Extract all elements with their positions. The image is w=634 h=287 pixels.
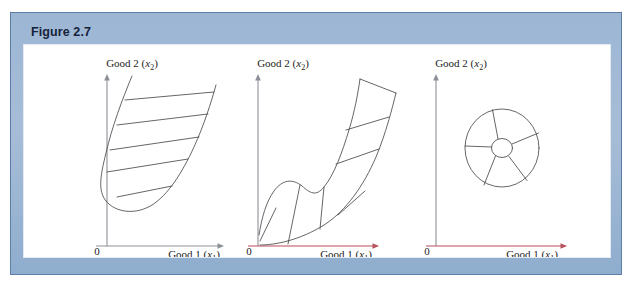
panel-left-origin-label: 0 [94, 245, 100, 257]
panel-left-tube-outline [101, 76, 216, 211]
panel-center-x-axis-label: Good 1 (x1) [320, 248, 372, 258]
panel-right-outer-circle [465, 109, 539, 187]
panel-left-indifference-curve-4 [117, 114, 208, 125]
panel-right-spoke-5 [465, 146, 492, 147]
panel-center-y-axis-label: Good 2 (x2) [257, 57, 309, 72]
figure-title: Figure 2.7 [31, 25, 91, 39]
panel-center-band-lower [260, 93, 396, 245]
figure-root: Figure 2.7 [0, 0, 634, 287]
panel-right-spoke-2 [512, 133, 539, 144]
panel-left: Good 2 (x2) Good 1 (x1) 0 [94, 57, 221, 258]
panel-center-indifference-curve-2 [288, 185, 300, 244]
panel-center: Good 2 (x2) Good 1 (x1) 0 [246, 57, 396, 258]
panel-center-origin-label: 0 [246, 245, 252, 257]
panel-right-inner-circle [492, 139, 513, 158]
panel-right-origin-label: 0 [424, 245, 430, 257]
panel-right: Good 2 (x2) Good 1 (x1) 0 [424, 57, 564, 258]
panel-left-indifference-curve-3 [110, 137, 199, 150]
panel-left-indifference-curve-2 [107, 159, 188, 172]
panel-left-y-axis-label: Good 2 (x2) [106, 57, 158, 72]
plot-svg: Good 2 (x2) Good 1 (x1) 0 [24, 45, 611, 258]
figure-panel: Figure 2.7 [10, 12, 622, 275]
panel-center-band-cap [360, 79, 396, 93]
panel-right-spoke-1 [493, 110, 499, 139]
panel-right-y-axis-label: Good 2 (x2) [435, 57, 487, 72]
panel-right-spoke-3 [509, 157, 527, 181]
panel-center-indifference-curve-1 [260, 208, 276, 241]
panel-right-x-axis-label: Good 1 (x1) [506, 248, 558, 258]
plot-surface: Good 2 (x2) Good 1 (x1) 0 [23, 44, 611, 258]
panel-right-spoke-4 [484, 156, 496, 185]
panel-center-indifference-curve-5 [336, 149, 379, 164]
panel-center-indifference-curve-3 [320, 187, 324, 229]
panel-left-indifference-curve-5 [125, 92, 214, 100]
panel-center-indifference-curve-4 [338, 191, 365, 215]
panel-left-x-axis-label: Good 1 (x1) [168, 248, 220, 258]
